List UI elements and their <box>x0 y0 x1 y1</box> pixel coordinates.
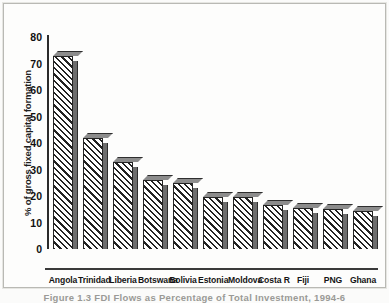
x-tick-label: Estonia <box>198 275 228 285</box>
bar-front-face <box>53 56 73 269</box>
floor-top-face <box>45 249 378 268</box>
y-tick-label: 30 <box>30 164 42 176</box>
bar-group <box>83 37 103 249</box>
floor-front-edge <box>45 268 378 270</box>
bar-top-face <box>293 203 323 208</box>
bar-top-face <box>173 178 203 183</box>
bar-top-face <box>323 204 353 209</box>
y-tick-label: 10 <box>30 217 42 229</box>
x-tick-label: Angola <box>48 275 78 285</box>
figure-frame: % of gross fixed capital formation 80706… <box>3 3 386 288</box>
bar-group <box>173 37 193 249</box>
y-tick-label: 0 <box>36 243 42 255</box>
bar-top-face <box>53 51 83 56</box>
bar-group <box>143 37 163 249</box>
y-axis-line <box>47 35 49 251</box>
bar-group <box>53 37 73 249</box>
bar-top-face <box>83 133 113 138</box>
x-tick-label: Bolivia <box>168 275 198 285</box>
y-axis-title-wrapper: % of gross fixed capital formation <box>10 37 24 249</box>
bar-top-face <box>113 157 143 162</box>
bar-group <box>353 37 373 249</box>
bar-group <box>203 37 223 249</box>
bar-side-face <box>73 61 78 269</box>
bar-top-face <box>143 175 173 180</box>
x-tick-label: PNG <box>318 275 348 285</box>
axis-floor <box>45 249 380 271</box>
bar-group <box>293 37 313 249</box>
x-tick-label: Botswana <box>138 275 168 285</box>
bar-group <box>113 37 133 249</box>
y-tick-label: 60 <box>30 84 42 96</box>
y-tick-label: 40 <box>30 137 42 149</box>
x-tick-label: Fiji <box>288 275 318 285</box>
figure-container: % of gross fixed capital formation 80706… <box>0 0 389 303</box>
x-tick-label: Trinidad <box>78 275 108 285</box>
bar-group <box>323 37 343 249</box>
bar <box>53 56 73 269</box>
y-tick-label: 20 <box>30 190 42 202</box>
x-tick-label: Ghana <box>348 275 378 285</box>
bar-group <box>233 37 253 249</box>
x-tick-label: Liberia <box>108 275 138 285</box>
bar-top-face <box>353 206 383 211</box>
bar-group <box>263 37 283 249</box>
bar-top-face <box>203 192 233 197</box>
bar-top-face <box>233 192 263 197</box>
plot-area: 80706050403020100 AngolaTrinidadLiberiaB… <box>48 37 378 249</box>
y-tick-label: 70 <box>30 58 42 70</box>
x-tick-label: Moldova <box>228 275 258 285</box>
figure-caption: Figure 1.3 FDI Flows as Percentage of To… <box>0 292 389 303</box>
y-tick-label: 50 <box>30 111 42 123</box>
bar-top-face <box>263 200 293 205</box>
x-tick-label: Costa R <box>258 275 288 285</box>
y-tick-label: 80 <box>30 31 42 43</box>
